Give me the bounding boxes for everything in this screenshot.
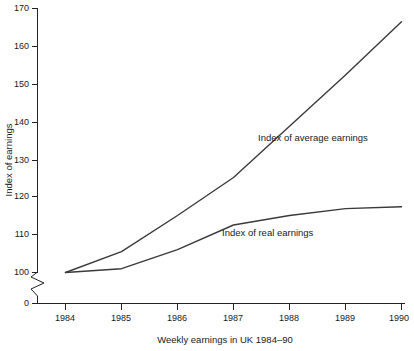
y-tick-label-120: 120 — [14, 191, 29, 201]
y-tick-label-100: 100 — [14, 267, 29, 277]
y-tick-label-110: 110 — [15, 229, 29, 239]
y-tick-label-140: 140 — [14, 117, 29, 127]
series-label-average-earnings: Index of average earnings — [258, 132, 368, 143]
series-label-real-earnings: Index of real earnings — [222, 227, 314, 238]
x-tick-label-1984: 1984 — [55, 313, 75, 323]
y-tick-label-130: 130 — [14, 155, 29, 165]
x-tick-label-1990: 1990 — [389, 313, 409, 323]
y-tick-label-150: 150 — [14, 79, 29, 89]
line-chart-svg: 170 160 150 140 130 120 110 100 0 1984 1… — [0, 0, 414, 351]
y-tick-label-170: 170 — [14, 3, 29, 13]
y-axis-break-icon — [31, 272, 44, 296]
y-tick-label-160: 160 — [14, 41, 29, 51]
x-tick-label-1986: 1986 — [167, 313, 187, 323]
x-tick-label-1989: 1989 — [335, 313, 355, 323]
chart-figure: 170 160 150 140 130 120 110 100 0 1984 1… — [0, 0, 414, 351]
x-tick-label-1988: 1988 — [279, 313, 299, 323]
y-tick-label-0: 0 — [24, 298, 29, 308]
x-tick-label-1985: 1985 — [111, 313, 131, 323]
y-axis-title: Index of earnings — [3, 123, 14, 196]
series-line-real-earnings — [66, 207, 402, 273]
x-tick-label-1987: 1987 — [223, 313, 243, 323]
x-axis-title: Weekly earnings in UK 1984–90 — [157, 334, 293, 345]
